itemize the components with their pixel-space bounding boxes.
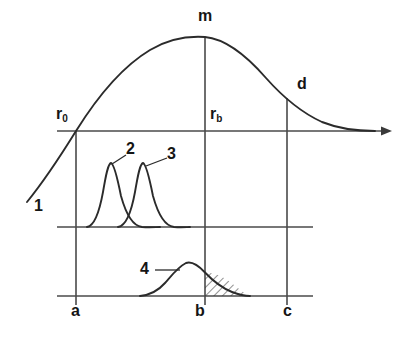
- label-axis-b: b: [195, 303, 205, 319]
- curve-2-path: [87, 163, 160, 227]
- label-peak-m: m: [198, 8, 212, 24]
- leader-line-3: [146, 158, 167, 166]
- curve-4-hatched-region: [203, 265, 255, 299]
- curve-1-path: [27, 37, 375, 202]
- label-r-zero-subscript: 0: [62, 113, 68, 124]
- label-r-zero: r0: [56, 106, 68, 122]
- label-r-b: rb: [210, 106, 222, 122]
- label-axis-c: c: [283, 303, 292, 319]
- label-curve-1: 1: [34, 198, 43, 214]
- label-r-b-subscript: b: [216, 113, 222, 124]
- figure-container: m r0 rb d 1 2 3 4 a b c: [0, 0, 404, 348]
- leader-line-2: [112, 155, 126, 164]
- label-curve-4: 4: [140, 261, 149, 277]
- label-curve-3: 3: [167, 146, 176, 162]
- label-point-d: d: [297, 76, 307, 92]
- label-axis-a: a: [71, 303, 80, 319]
- diagram-canvas: [0, 0, 404, 348]
- label-curve-2: 2: [126, 141, 135, 157]
